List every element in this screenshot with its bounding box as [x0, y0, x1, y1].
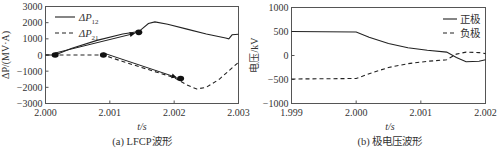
chart-b-x-axis-title: t/s — [385, 121, 395, 132]
chart-b-y-tick-label: 1000 — [269, 2, 289, 13]
chart-b-series-1-line — [292, 32, 486, 62]
chart-b-x-tick-label: 2.001 — [410, 107, 433, 118]
chart-b-y-axis: 10005000−500−1000 — [263, 2, 295, 109]
chart-a-x-axis-title: t/s — [137, 121, 147, 132]
chart-b-y-axis-title: 电压/kV — [248, 37, 260, 73]
chart-a-y-tick-label: −1000 — [17, 66, 43, 77]
chart-a-x-tick-label: 2.001 — [99, 107, 122, 118]
chart-b-y-tick-label: 0 — [284, 50, 289, 61]
chart-a-y-axis-title: ΔP/(MV·A) — [0, 31, 12, 79]
chart-a-series-1-line — [46, 22, 239, 55]
chart-b-series-2-line — [292, 52, 486, 79]
chart-a-marker — [135, 30, 142, 36]
legend-label-positive-pole: 正极 — [460, 13, 481, 25]
chart-a-marker — [52, 52, 59, 58]
chart-b-caption: (b) 极电压波形 — [358, 135, 424, 148]
chart-a-marker — [177, 76, 184, 82]
chart-a-lfcp: 3000200010000−1000−2000−3000 2.0002.0012… — [0, 1, 250, 148]
chart-a-y-axis: 3000200010000−1000−2000−3000 — [17, 1, 49, 109]
chart-a-legend: ΔP12 ΔP21 — [55, 12, 99, 42]
chart-a-caption: (a) LFCP波形 — [112, 135, 172, 148]
chart-a-y-tick-label: 2000 — [23, 17, 43, 28]
legend-label-dp21: ΔP21 — [78, 28, 99, 42]
chart-a-y-tick-label: 3000 — [23, 1, 43, 12]
chart-b-pole-voltage: 10005000−500−1000 1.9992.0002.0012.002 正… — [248, 2, 497, 148]
chart-a-y-tick-label: 0 — [38, 50, 43, 61]
chart-a-x-tick-label: 2.000 — [34, 107, 57, 118]
legend-label-negative-pole: 负极 — [460, 27, 481, 39]
chart-b-x-tick-label: 2.002 — [474, 107, 497, 118]
chart-a-marker — [100, 52, 107, 58]
figure: 3000200010000−1000−2000−3000 2.0002.0012… — [0, 0, 497, 156]
chart-a-series-2-line — [46, 55, 239, 89]
chart-a-x-tick-label: 2.002 — [163, 107, 186, 118]
legend-label-dp12: ΔP12 — [78, 12, 99, 26]
chart-a-annotations — [52, 30, 184, 82]
chart-a-y-tick-label: −2000 — [17, 82, 43, 93]
chart-a-x-tick-label: 2.003 — [227, 107, 250, 118]
chart-a-arrow-line — [103, 53, 176, 77]
chart-b-plot-frame — [292, 8, 486, 104]
chart-b-y-tick-label: −500 — [268, 74, 289, 85]
chart-b-x-tick-label: 2.000 — [345, 107, 368, 118]
chart-a-y-tick-label: 1000 — [23, 33, 43, 44]
chart-a-arrow-head — [171, 74, 177, 79]
chart-b-x-tick-label: 1.999 — [280, 107, 303, 118]
chart-b-legend: 正极 负极 — [443, 13, 481, 39]
chart-b-y-tick-label: 500 — [274, 26, 289, 37]
chart-b-series — [292, 32, 486, 80]
